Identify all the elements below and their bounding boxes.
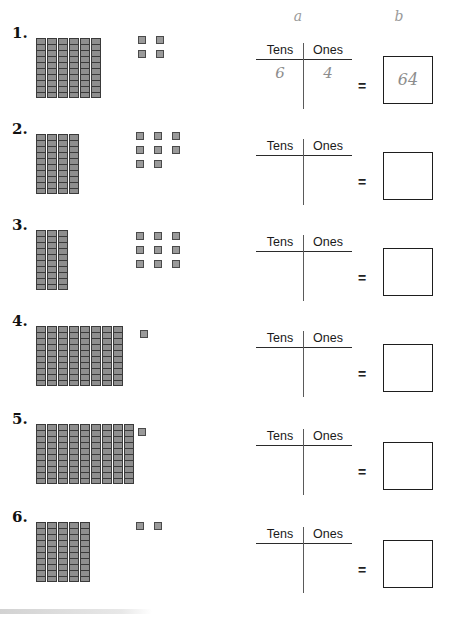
tens-rod bbox=[124, 424, 134, 484]
ones-unit-row bbox=[136, 160, 180, 168]
tens-rods-group bbox=[36, 326, 123, 386]
ones-unit bbox=[154, 146, 162, 154]
tens-rod bbox=[69, 326, 79, 386]
rod-cell bbox=[47, 92, 57, 98]
equals-sign: = bbox=[358, 174, 366, 190]
tens-value-field[interactable]: 6 bbox=[256, 60, 304, 86]
ones-unit bbox=[172, 146, 180, 154]
rod-cell bbox=[69, 576, 79, 582]
place-value-divider bbox=[303, 235, 304, 301]
ones-unit bbox=[154, 132, 162, 140]
place-value-divider bbox=[303, 527, 304, 593]
ones-header: Ones bbox=[304, 138, 352, 155]
tens-rod bbox=[58, 230, 68, 290]
ones-value-field[interactable] bbox=[304, 156, 352, 182]
tens-rod bbox=[47, 230, 57, 290]
ones-unit-row bbox=[138, 36, 164, 44]
question-number: 3. bbox=[12, 216, 28, 234]
answer-box[interactable] bbox=[383, 344, 433, 392]
problem-row: 1.TensOnes64=64 bbox=[0, 24, 464, 119]
ones-header: Ones bbox=[304, 428, 352, 445]
answer-box[interactable]: 64 bbox=[383, 56, 433, 104]
place-value-headers: TensOnes bbox=[256, 42, 352, 59]
tens-rods-group bbox=[36, 230, 68, 290]
rod-cell bbox=[69, 92, 79, 98]
rod-cell bbox=[58, 92, 68, 98]
ones-unit bbox=[154, 522, 162, 530]
ones-value-field[interactable] bbox=[304, 446, 352, 472]
tens-rods-group bbox=[36, 522, 90, 582]
rod-cell bbox=[69, 188, 79, 194]
tens-header: Tens bbox=[256, 138, 304, 155]
ones-unit bbox=[172, 260, 180, 268]
tens-rod bbox=[36, 230, 46, 290]
tens-rods-group bbox=[36, 134, 79, 194]
place-value-headers: TensOnes bbox=[256, 526, 352, 543]
ones-unit bbox=[136, 246, 144, 254]
ones-unit bbox=[154, 246, 162, 254]
rod-cell bbox=[69, 380, 79, 386]
ones-unit bbox=[136, 232, 144, 240]
rod-cell bbox=[47, 188, 57, 194]
question-number: 2. bbox=[12, 120, 28, 138]
ones-units-group bbox=[136, 132, 180, 168]
ones-value-field[interactable]: 4 bbox=[304, 60, 352, 86]
ones-unit-row bbox=[138, 50, 164, 58]
tens-value-field[interactable] bbox=[256, 544, 304, 570]
ones-unit bbox=[154, 232, 162, 240]
tens-value-field[interactable] bbox=[256, 156, 304, 182]
tens-rod bbox=[36, 522, 46, 582]
tens-rod bbox=[58, 38, 68, 98]
question-number: 1. bbox=[12, 24, 28, 42]
tens-rod bbox=[36, 38, 46, 98]
equals-sign: = bbox=[358, 78, 366, 94]
ones-value-field[interactable] bbox=[304, 544, 352, 570]
ones-unit-row bbox=[136, 232, 180, 240]
problem-row: 5.TensOnes= bbox=[0, 410, 464, 505]
rod-cell bbox=[36, 478, 46, 484]
rod-cell bbox=[47, 284, 57, 290]
rod-cell bbox=[58, 380, 68, 386]
rod-cell bbox=[47, 576, 57, 582]
place-value-entries bbox=[256, 348, 352, 374]
rod-cell bbox=[80, 576, 90, 582]
tens-rod bbox=[58, 134, 68, 194]
answer-box[interactable] bbox=[383, 152, 433, 200]
question-number: 6. bbox=[12, 508, 28, 526]
problem-row: 3.TensOnes= bbox=[0, 216, 464, 311]
rod-cell bbox=[91, 478, 101, 484]
answer-box[interactable] bbox=[383, 442, 433, 490]
tens-value-field[interactable] bbox=[256, 348, 304, 374]
tens-rods-group bbox=[36, 38, 101, 98]
rod-cell bbox=[58, 188, 68, 194]
ones-unit bbox=[136, 132, 144, 140]
ones-unit bbox=[172, 132, 180, 140]
rod-cell bbox=[36, 576, 46, 582]
ones-units-group bbox=[136, 522, 162, 530]
tens-rod bbox=[58, 522, 68, 582]
rod-cell bbox=[102, 478, 112, 484]
tens-rod bbox=[36, 134, 46, 194]
place-value-entries bbox=[256, 156, 352, 182]
answer-box[interactable] bbox=[383, 540, 433, 588]
place-value-divider bbox=[303, 43, 304, 109]
column-header-a: a bbox=[283, 8, 313, 24]
ones-value-field[interactable] bbox=[304, 348, 352, 374]
equals-sign: = bbox=[358, 366, 366, 382]
ones-unit bbox=[138, 36, 146, 44]
rod-cell bbox=[36, 188, 46, 194]
ones-unit bbox=[140, 330, 148, 338]
place-value-table: TensOnes64 bbox=[256, 42, 352, 86]
answer-box[interactable] bbox=[383, 248, 433, 296]
ones-unit bbox=[136, 260, 144, 268]
tens-rod bbox=[80, 326, 90, 386]
tens-value-field[interactable] bbox=[256, 252, 304, 278]
place-value-table: TensOnes bbox=[256, 138, 352, 182]
ones-unit bbox=[172, 232, 180, 240]
tens-rod bbox=[58, 424, 68, 484]
equals-sign: = bbox=[358, 562, 366, 578]
tens-value-field[interactable] bbox=[256, 446, 304, 472]
tens-rod bbox=[36, 424, 46, 484]
ones-value-field[interactable] bbox=[304, 252, 352, 278]
rod-cell bbox=[58, 478, 68, 484]
